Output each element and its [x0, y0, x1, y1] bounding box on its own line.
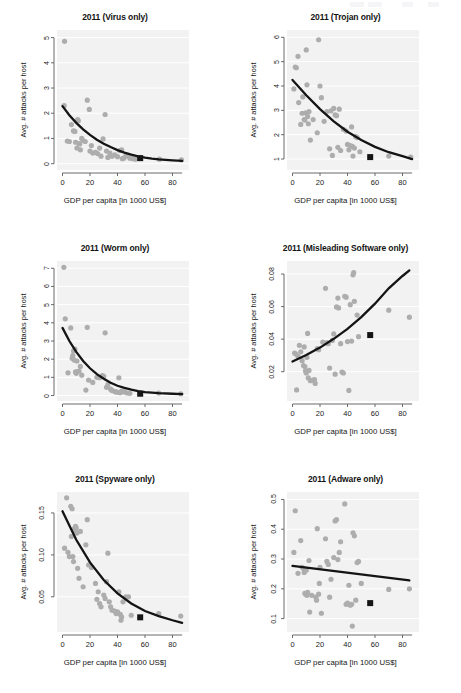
scatter-point [79, 373, 84, 378]
trend-curve [293, 270, 410, 361]
scatter-point [296, 100, 301, 105]
scatter-point [178, 613, 183, 618]
scatter-point [338, 539, 343, 544]
x-tick-label: 20 [316, 409, 324, 418]
y-tick-label: 4 [43, 61, 50, 65]
scatter-point [129, 613, 134, 618]
y-tick-label: 6 [43, 285, 50, 289]
scatter-point [351, 270, 356, 275]
y-tick-label: 3 [43, 339, 50, 343]
scatter-point [386, 587, 391, 592]
scatter-point [71, 559, 76, 564]
scatter-point [89, 143, 94, 148]
panel-title: 2011 (Adware only) [230, 474, 461, 484]
scatter-point [319, 611, 324, 616]
scatter-point [350, 154, 355, 159]
scatter-point [335, 557, 340, 562]
scatter-point [83, 139, 88, 144]
scatter-point [103, 330, 108, 335]
y-axis-label: Avg. # attacks per host [249, 62, 258, 137]
y-tick-label: 3 [273, 108, 280, 112]
scatter-point [328, 577, 333, 582]
x-tick-label: 80 [168, 178, 176, 187]
scatter-point [317, 83, 322, 88]
scatter-point [293, 508, 298, 513]
y-axis-label: Avg. # attacks per host [249, 293, 258, 368]
scatter-point [294, 65, 299, 70]
scatter-point [70, 506, 75, 511]
scatter-point [307, 609, 312, 614]
scatter-point [291, 550, 296, 555]
scatter-point [298, 538, 303, 543]
x-tick-label: 0 [290, 409, 294, 418]
scatter-point [126, 594, 131, 599]
scatter-point [348, 302, 353, 307]
scatter-point [294, 387, 299, 392]
x-tick-label: 20 [316, 178, 324, 187]
scatter-point [69, 122, 74, 127]
scatter-point [333, 372, 338, 377]
scatter-point [352, 533, 357, 538]
scatter-point [344, 295, 349, 300]
x-tick-label: 0 [60, 178, 64, 187]
scatter-point [295, 571, 300, 576]
scatter-point [87, 107, 92, 112]
x-tick-label: 40 [343, 409, 351, 418]
x-tick-label: 0 [290, 640, 294, 649]
plot-area [57, 261, 189, 401]
y-tick-label: 0 [43, 162, 50, 166]
y-tick-label: 7 [43, 266, 50, 270]
plot-area [287, 30, 419, 170]
x-tick-label: 60 [141, 178, 149, 187]
scatter-point [349, 602, 354, 607]
chart-panel: 2011 (Worm only)01234567020406080GDP per… [0, 231, 230, 462]
scatter-point [338, 148, 343, 153]
trend-curve [293, 566, 410, 581]
scatter-point [350, 623, 355, 628]
scatter-point [327, 366, 332, 371]
y-tick-label: 0.05 [38, 590, 45, 604]
scatter-point [295, 54, 300, 59]
y-tick-label: 0.5 [270, 495, 277, 505]
scatter-point [306, 558, 311, 563]
y-axis-label: Avg. # attacks per host [19, 524, 28, 599]
scatter-point [407, 315, 412, 320]
scatter-point [311, 117, 316, 122]
y-tick-label: 0.10 [38, 548, 45, 562]
x-tick-label: 40 [113, 640, 121, 649]
scatter-point [334, 113, 339, 118]
x-axis-label: GDP per capita [in 1000 US$] [230, 427, 461, 436]
chart-panel: 2011 (Virus only)012345020406080GDP per … [0, 0, 230, 231]
plot-canvas [287, 492, 419, 632]
y-tick-label: 6 [273, 35, 280, 39]
y-tick-label: 0.3 [270, 554, 277, 564]
scatter-point [298, 122, 303, 127]
scatter-point [85, 98, 90, 103]
trend-curve [63, 511, 183, 623]
scatter-point [306, 109, 311, 114]
scatter-point [302, 344, 307, 349]
scatter-point [353, 598, 358, 603]
scatter-point [356, 334, 361, 339]
scatter-point [62, 546, 67, 551]
scatter-point [61, 265, 66, 270]
reference-marker [367, 332, 373, 338]
reference-marker [137, 614, 143, 620]
scatter-point [81, 584, 86, 589]
scatter-point [352, 145, 357, 150]
plot-canvas [57, 261, 189, 401]
reference-marker [367, 154, 373, 160]
x-tick-label: 60 [141, 409, 149, 418]
reference-marker [367, 600, 373, 606]
scatter-point [304, 47, 309, 52]
scatter-point [313, 381, 318, 386]
scatter-point [67, 139, 72, 144]
scatter-point [326, 562, 331, 567]
x-tick-label: 20 [316, 640, 324, 649]
scatter-point [330, 153, 335, 158]
y-tick-label: 0.08 [268, 267, 275, 281]
x-axis-label: GDP per capita [in 1000 US$] [230, 196, 461, 205]
scatter-point [70, 554, 75, 559]
scatter-point [334, 517, 339, 522]
y-tick-label: 0.2 [270, 584, 277, 594]
